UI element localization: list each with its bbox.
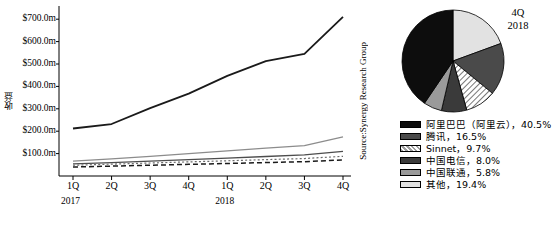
legend-swatch-icon bbox=[400, 145, 421, 152]
series-line-2 bbox=[73, 151, 343, 164]
x-tick-label: 3Q bbox=[136, 180, 164, 191]
legend-label: 其他，19.4% bbox=[426, 177, 486, 191]
x-axis-year-label: 2017 bbox=[61, 196, 80, 206]
series-line-1 bbox=[73, 137, 343, 161]
x-tick-label: 2Q bbox=[98, 180, 126, 191]
x-axis-year-label: 2018 bbox=[215, 196, 234, 206]
x-tick-label: 2Q bbox=[252, 180, 280, 191]
x-tick-label: 4Q bbox=[329, 180, 357, 191]
series-line-0 bbox=[73, 17, 343, 129]
legend-swatch-icon bbox=[400, 133, 421, 140]
legend-item: 其他，19.4% bbox=[400, 178, 552, 190]
line-chart-plot bbox=[0, 0, 392, 225]
series-line-3 bbox=[73, 156, 343, 165]
x-tick-label: 1Q bbox=[213, 180, 241, 191]
source-note: Source:Synergy Research Group bbox=[358, 42, 368, 160]
chart-legend: 阿里巴巴（阿里云），40.5%腾讯，16.5%Sinnet，9.7%中国电信，8… bbox=[400, 118, 552, 190]
legend-swatch-icon bbox=[400, 157, 421, 164]
chart-figure: 收益 $700.0m$600.0m$500.0m$400.0m$300.0m$2… bbox=[0, 0, 552, 225]
line-chart-panel: 收益 $700.0m$600.0m$500.0m$400.0m$300.0m$2… bbox=[0, 0, 392, 225]
x-tick-label: 3Q bbox=[290, 180, 318, 191]
legend-swatch-icon bbox=[400, 181, 421, 188]
x-tick-label: 4Q bbox=[175, 180, 203, 191]
pie-chart-graphic bbox=[398, 6, 508, 116]
legend-swatch-icon bbox=[400, 169, 421, 176]
x-tick-label: 1Q bbox=[59, 180, 87, 191]
pie-chart-panel: 4Q 2018 阿里巴巴（阿里云），40.5%腾讯，16.5%Sinnet，9.… bbox=[396, 0, 552, 225]
legend-swatch-icon bbox=[400, 121, 421, 128]
